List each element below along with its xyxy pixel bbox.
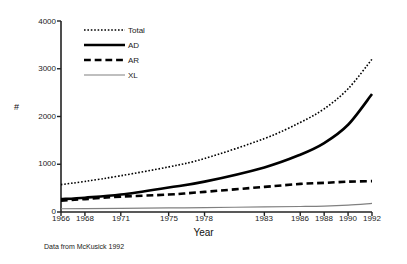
y-axis-title: # bbox=[14, 103, 19, 112]
series-line-xl bbox=[61, 203, 372, 208]
x-axis-title: Year bbox=[0, 228, 407, 238]
chart-figure: 4000 3000 2000 1000 0 1966 1968 1971 197… bbox=[0, 0, 407, 264]
y-tick-label-4000: 4000 bbox=[24, 18, 56, 26]
data-series-group bbox=[61, 59, 372, 209]
y-tick-label-3000: 3000 bbox=[24, 65, 56, 73]
legend-label-ar: AR bbox=[128, 57, 139, 65]
y-tick-label-2000: 2000 bbox=[24, 113, 56, 121]
x-tick-label-1983: 1983 bbox=[250, 215, 278, 223]
x-tick-label-1971: 1971 bbox=[107, 215, 135, 223]
axes bbox=[61, 21, 372, 212]
series-line-total bbox=[61, 59, 372, 184]
legend-label-total: Total bbox=[128, 27, 145, 35]
x-tick-label-1992: 1992 bbox=[358, 215, 386, 223]
series-line-ad bbox=[61, 94, 372, 199]
series-line-ar bbox=[61, 181, 372, 201]
legend-line-samples bbox=[84, 30, 125, 75]
y-tick-label-1000: 1000 bbox=[24, 160, 56, 168]
legend-label-xl: XL bbox=[128, 72, 138, 80]
x-tick-label-1978: 1978 bbox=[190, 215, 218, 223]
legend-label-ad: AD bbox=[128, 42, 139, 50]
x-tick-label-1968: 1968 bbox=[71, 215, 99, 223]
x-tick-label-1975: 1975 bbox=[155, 215, 183, 223]
chart-plot-area bbox=[0, 0, 407, 264]
source-note: Data from McKusick 1992 bbox=[44, 243, 124, 250]
